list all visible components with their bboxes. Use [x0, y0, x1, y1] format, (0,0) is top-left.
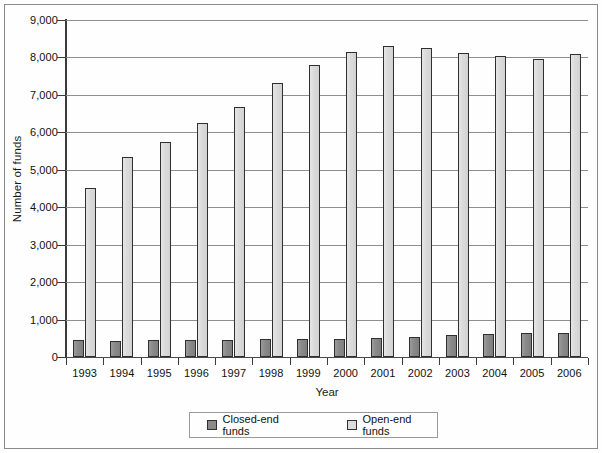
bar-closed-end-funds: [297, 339, 308, 357]
legend-swatch-closed: [207, 420, 217, 430]
y-axis-tick-label: 8,000: [6, 51, 58, 63]
plot-area: [66, 20, 588, 357]
y-axis-tick: [57, 170, 65, 171]
bar-group: [215, 20, 252, 357]
y-axis-tick-label: 5,000: [6, 164, 58, 176]
y-axis-tick-labels: 01,0002,0003,0004,0005,0006,0007,0008,00…: [0, 0, 58, 453]
bar-open-end-funds: [421, 48, 432, 357]
bar-closed-end-funds: [409, 337, 420, 357]
x-axis-tick: [215, 358, 216, 365]
y-axis-tick-label: 9,000: [6, 14, 58, 26]
bar-group: [66, 20, 103, 357]
legend-swatch-open: [347, 420, 357, 430]
x-axis-tick: [66, 358, 67, 365]
y-axis-tick-label: 1,000: [6, 314, 58, 326]
y-axis-tick-label: 0: [6, 351, 58, 363]
bar-group: [252, 20, 289, 357]
bar-closed-end-funds: [260, 339, 271, 357]
bar-closed-end-funds: [73, 340, 84, 357]
x-axis-tick: [290, 358, 291, 365]
bar-group: [178, 20, 215, 357]
bar-closed-end-funds: [446, 335, 457, 357]
bar-open-end-funds: [197, 123, 208, 357]
y-axis-tick-label: 3,000: [6, 239, 58, 251]
bar-group: [364, 20, 401, 357]
x-axis-tick: [364, 358, 365, 365]
legend-label: Closed-end funds: [223, 413, 304, 437]
bar-group: [439, 20, 476, 357]
y-axis-tick: [57, 320, 65, 321]
bar-group: [551, 20, 588, 357]
y-axis-tick: [57, 20, 65, 21]
bar-open-end-funds: [495, 56, 506, 357]
chart-legend: Closed-end fundsOpen-end funds: [189, 412, 438, 438]
x-axis-tick: [141, 358, 142, 365]
y-axis-tick-label: 6,000: [6, 126, 58, 138]
bar-closed-end-funds: [110, 341, 121, 357]
x-axis-tick: [402, 358, 403, 365]
bar-open-end-funds: [85, 188, 96, 357]
y-axis-tick: [57, 282, 65, 283]
x-axis-title: Year: [66, 386, 588, 398]
x-axis-tick: [252, 358, 253, 365]
y-axis-tick: [57, 57, 65, 58]
bar-group: [327, 20, 364, 357]
y-axis-tick: [57, 132, 65, 133]
x-axis-tick: [476, 358, 477, 365]
bar-closed-end-funds: [483, 334, 494, 357]
x-axis-tick-label: 2006: [545, 367, 593, 379]
chart-figure: Number of funds 01,0002,0003,0004,0005,0…: [0, 0, 602, 453]
x-axis-tick: [178, 358, 179, 365]
bar-closed-end-funds: [521, 333, 532, 357]
bar-closed-end-funds: [334, 339, 345, 357]
y-axis-tick: [57, 357, 65, 358]
bar-open-end-funds: [383, 46, 394, 357]
bar-open-end-funds: [458, 53, 469, 357]
bar-open-end-funds: [122, 157, 133, 357]
bar-group: [513, 20, 550, 357]
y-axis-tick: [57, 245, 65, 246]
y-axis-tick-label: 7,000: [6, 89, 58, 101]
bar-closed-end-funds: [185, 340, 196, 357]
y-axis-tick: [57, 207, 65, 208]
bar-closed-end-funds: [148, 340, 159, 357]
bar-group: [103, 20, 140, 357]
bar-group: [290, 20, 327, 357]
y-axis-tick-label: 4,000: [6, 201, 58, 213]
bar-open-end-funds: [570, 54, 581, 357]
bar-open-end-funds: [160, 142, 171, 357]
x-axis-tick: [439, 358, 440, 365]
y-axis-tick: [57, 95, 65, 96]
bar-closed-end-funds: [371, 338, 382, 357]
legend-label: Open-end funds: [363, 413, 437, 437]
x-axis-tick: [588, 358, 589, 365]
bar-open-end-funds: [272, 83, 283, 357]
bar-group: [402, 20, 439, 357]
bar-closed-end-funds: [222, 340, 233, 357]
legend-item: Open-end funds: [347, 413, 437, 437]
bar-open-end-funds: [309, 65, 320, 357]
bar-open-end-funds: [234, 107, 245, 357]
legend-item: Closed-end funds: [207, 413, 304, 437]
x-axis-tick: [513, 358, 514, 365]
bar-group: [476, 20, 513, 357]
bar-open-end-funds: [533, 59, 544, 357]
bar-group: [141, 20, 178, 357]
x-axis-tick: [551, 358, 552, 365]
x-axis-tick: [103, 358, 104, 365]
x-axis-tick: [327, 358, 328, 365]
bar-open-end-funds: [346, 52, 357, 357]
y-axis-tick-label: 2,000: [6, 276, 58, 288]
bar-closed-end-funds: [558, 333, 569, 357]
